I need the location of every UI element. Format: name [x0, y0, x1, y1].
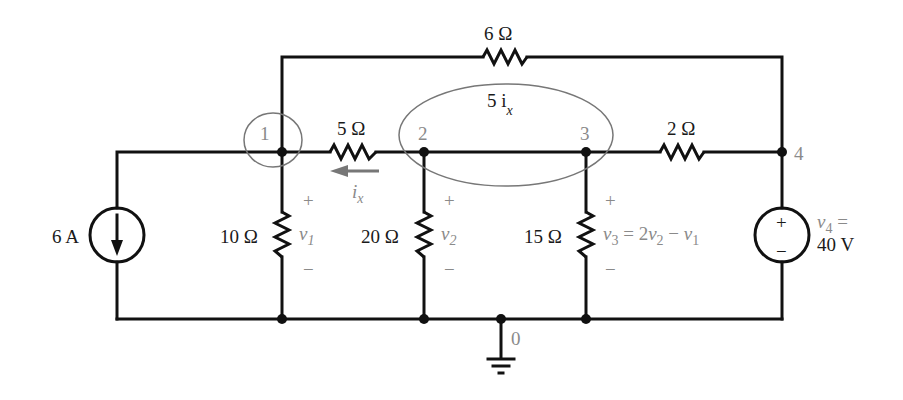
- node-3-label: 3: [580, 123, 590, 144]
- vsrc-minus: −: [776, 241, 787, 262]
- resistor-15-ohm: [579, 212, 593, 257]
- v3-equation: v3 = 2v2 − v1: [603, 223, 699, 248]
- v3-plus: +: [605, 190, 616, 211]
- ix-label: ix: [352, 181, 364, 206]
- node-1-ring: [244, 113, 302, 167]
- label-6-amp: 6 A: [52, 226, 79, 247]
- resistor-10-ohm: [275, 212, 289, 257]
- node-1-label: 1: [260, 123, 270, 144]
- shunt-15-ohm: [579, 152, 593, 319]
- v1-label: v1: [299, 223, 314, 248]
- label-5-ohm: 5 Ω: [337, 118, 365, 139]
- v1-minus: −: [303, 259, 314, 280]
- v2-plus: +: [444, 190, 455, 211]
- label-15-ohm: 15 Ω: [524, 226, 562, 247]
- current-source-6a: [90, 208, 144, 319]
- vsrc-plus: +: [776, 212, 787, 233]
- v2-label: v2: [441, 223, 456, 248]
- node-0-label: 0: [511, 328, 521, 349]
- v3-minus: −: [605, 259, 616, 280]
- v4-label: v4 =: [817, 211, 848, 236]
- v4-value: 40 V: [817, 234, 854, 255]
- label-2-ohm: 2 Ω: [667, 118, 695, 139]
- supernode-label: 5 ix: [487, 90, 514, 118]
- node-4-label: 4: [794, 143, 804, 164]
- resistor-2-ohm: [660, 145, 704, 159]
- label-10-ohm: 10 Ω: [220, 226, 258, 247]
- v2-minus: −: [444, 259, 455, 280]
- voltage-source-40v: [755, 152, 809, 319]
- label-20-ohm: 20 Ω: [361, 226, 399, 247]
- resistor-5-ohm: [330, 145, 376, 159]
- resistor-6-ohm: [483, 50, 527, 64]
- node-2-label: 2: [418, 123, 428, 144]
- label-6-ohm: 6 Ω: [484, 23, 512, 44]
- v1-plus: +: [303, 190, 314, 211]
- circuit-diagram: 6 Ω 5 Ω 2 Ω 10 Ω 20 Ω 15 Ω 6 A 1 2 3 4 0…: [0, 0, 903, 400]
- resistor-20-ohm: [417, 212, 431, 257]
- shunt-20-ohm: [417, 152, 431, 319]
- ix-arrow-icon: [330, 165, 379, 177]
- shunt-10-ohm: [275, 152, 289, 319]
